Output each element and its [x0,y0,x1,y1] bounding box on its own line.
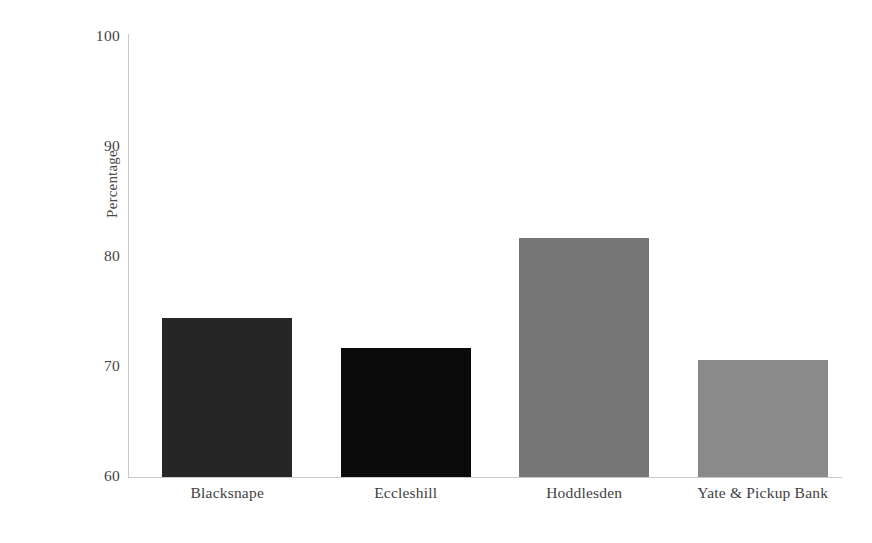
bar-chart: Percentage 10090807060 BlacksnapeEcclesh… [0,0,872,543]
y-tick-label: 60 [64,467,120,485]
bar-2 [519,238,649,477]
y-tick-label: 80 [64,247,120,265]
x-tick-label: Yate & Pickup Bank [674,484,853,502]
y-tick-label: 70 [64,357,120,375]
x-axis-line [128,477,842,478]
y-tick-label: 90 [64,137,120,155]
x-axis-tick-labels: BlacksnapeEccleshillHoddlesdenYate & Pic… [128,484,842,514]
y-tick-label: 100 [64,27,120,45]
y-axis-tick-labels: 10090807060 [56,0,120,543]
x-tick-label: Eccleshill [317,484,496,502]
bar-0 [162,318,292,478]
x-tick-label: Blacksnape [138,484,317,502]
bar-1 [341,348,471,477]
bars-layer [128,37,842,477]
bar-3 [698,360,828,477]
x-tick-label: Hoddlesden [495,484,674,502]
